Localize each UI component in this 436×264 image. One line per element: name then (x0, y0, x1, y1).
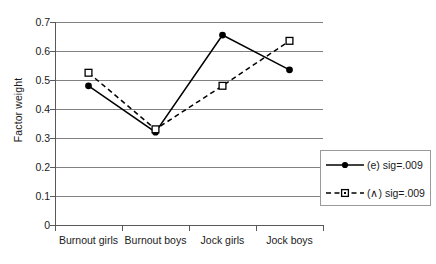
data-point-marker[interactable] (85, 69, 92, 76)
data-point-marker[interactable] (85, 82, 92, 89)
legend-label-series-1: (∧) sig=.009 (367, 187, 425, 199)
data-point-marker[interactable] (219, 32, 226, 39)
legend-sample-dashed-square-icon (325, 179, 365, 207)
legend: (e) sig=.009 (∧) sig=.009 (320, 150, 431, 206)
legend-sample-solid-circle-icon (325, 151, 365, 179)
series-layer (0, 0, 436, 264)
series-line-0 (89, 35, 290, 132)
legend-entry-series-1[interactable]: (∧) sig=.009 (321, 179, 432, 207)
data-point-marker[interactable] (219, 82, 226, 89)
data-point-marker[interactable] (286, 66, 293, 73)
factor-weight-line-chart: Factor weight 00.10.20.30.40.50.60.7 Bur… (0, 0, 436, 264)
legend-label-series-0: (e) sig=.009 (367, 159, 423, 171)
data-point-marker[interactable] (286, 37, 293, 44)
data-point-marker[interactable] (152, 126, 159, 133)
legend-entry-series-0[interactable]: (e) sig=.009 (321, 151, 432, 179)
